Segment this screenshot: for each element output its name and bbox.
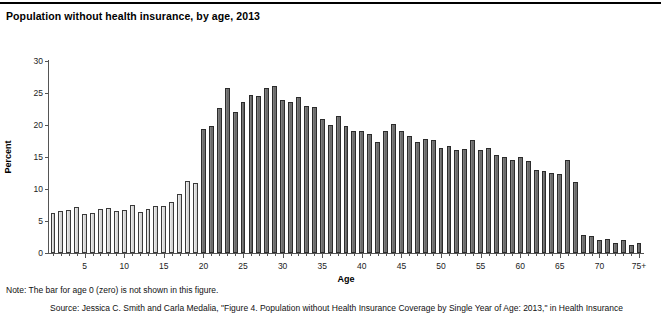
bar (526, 161, 531, 253)
bar (629, 245, 634, 253)
bar (415, 142, 420, 253)
bar (613, 243, 618, 253)
y-tick (45, 125, 49, 126)
bar (82, 214, 87, 253)
bar (557, 174, 562, 253)
bar (185, 181, 190, 253)
x-tick-minor (108, 253, 109, 256)
x-tick-minor (314, 253, 315, 256)
bar (288, 102, 293, 253)
bar (367, 134, 372, 253)
bar (542, 171, 547, 253)
bar (359, 131, 364, 253)
x-tick-minor (576, 253, 577, 256)
bar (589, 236, 594, 253)
bar (565, 160, 570, 253)
x-tick-major (164, 253, 165, 258)
bar (447, 146, 452, 253)
y-tick (45, 189, 49, 190)
bar (597, 240, 602, 253)
bar (241, 102, 246, 253)
bar (605, 239, 610, 253)
x-tick-minor (536, 253, 537, 256)
x-tick-minor (219, 253, 220, 256)
bar (51, 213, 56, 253)
bar (98, 209, 103, 253)
bar (256, 96, 261, 253)
bar (233, 112, 238, 253)
bar (518, 157, 523, 253)
bar (249, 95, 254, 253)
x-tick-label: 25 (238, 261, 247, 271)
bar (193, 183, 198, 253)
bar (454, 150, 459, 253)
x-tick-major (639, 253, 640, 258)
x-tick-major (85, 253, 86, 258)
x-tick-minor (148, 253, 149, 256)
x-tick-minor (69, 253, 70, 256)
x-tick-minor (457, 253, 458, 256)
x-tick-minor (615, 253, 616, 256)
bar (510, 160, 515, 253)
x-tick-minor (306, 253, 307, 256)
bar (58, 211, 63, 253)
bar (549, 173, 554, 253)
bar (502, 157, 507, 253)
x-tick-minor (93, 253, 94, 256)
x-tick-minor (140, 253, 141, 256)
bar (470, 140, 475, 253)
figure-container: Population without health insurance, by … (0, 0, 661, 317)
figure-title: Population without health insurance, by … (6, 10, 260, 22)
x-tick-minor (132, 253, 133, 256)
bar (534, 170, 539, 253)
bar (90, 213, 95, 253)
x-tick-minor (346, 253, 347, 256)
bar (423, 139, 428, 253)
bar (344, 126, 349, 253)
x-tick-minor (544, 253, 545, 256)
x-tick-minor (156, 253, 157, 256)
x-tick-minor (496, 253, 497, 256)
bar (336, 116, 341, 253)
bar (177, 194, 182, 253)
bar (225, 88, 230, 253)
x-tick-major (441, 253, 442, 258)
x-tick-major (481, 253, 482, 258)
bar (494, 155, 499, 253)
y-tick (45, 61, 49, 62)
x-tick-label: 5 (82, 261, 87, 271)
bar (312, 107, 317, 253)
y-tick (45, 157, 49, 158)
y-axis-title: Percent (3, 140, 13, 173)
bar (272, 86, 277, 253)
x-tick-label: 55 (476, 261, 485, 271)
bar (573, 182, 578, 253)
figure-note: Note: The bar for age 0 (zero) is not sh… (6, 285, 218, 295)
y-tick-label: 5 (38, 216, 43, 226)
bar (431, 140, 436, 253)
x-tick-minor (489, 253, 490, 256)
x-axis-title: Age (337, 274, 354, 284)
bar (122, 210, 127, 253)
x-tick-label: 70 (595, 261, 604, 271)
x-tick-minor (568, 253, 569, 256)
x-tick-minor (259, 253, 260, 256)
x-tick-major (124, 253, 125, 258)
bar (320, 119, 325, 253)
x-tick-minor (512, 253, 513, 256)
bar (169, 202, 174, 253)
bar (637, 243, 642, 253)
y-tick (45, 93, 49, 94)
plot-area: Percent Age 051015202530 510152025303540… (49, 61, 643, 253)
x-tick-label: 75+ (632, 261, 646, 271)
bar (328, 125, 333, 253)
x-tick-minor (330, 253, 331, 256)
y-tick-label: 20 (34, 120, 43, 130)
x-tick-minor (227, 253, 228, 256)
x-tick-minor (53, 253, 54, 256)
x-tick-minor (370, 253, 371, 256)
x-tick-minor (267, 253, 268, 256)
x-tick-minor (592, 253, 593, 256)
x-tick-minor (631, 253, 632, 256)
x-tick-minor (409, 253, 410, 256)
